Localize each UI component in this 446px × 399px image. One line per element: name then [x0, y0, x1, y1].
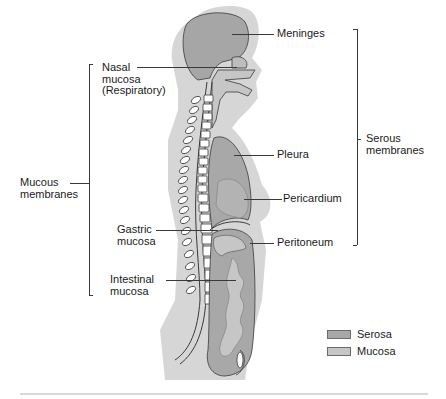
legend-mucosa-label: Mucosa	[357, 345, 396, 357]
mucous-bracket-bottom	[89, 295, 93, 296]
peritoneum-label: Peritoneum	[277, 237, 333, 249]
mucous-membranes-label: Mucous membranes	[20, 177, 78, 200]
nasal-mucosa-label: Nasal mucosa (Respiratory)	[102, 62, 166, 97]
mucous-bracket-top	[89, 64, 93, 65]
gastric-mucosa-leader	[156, 230, 218, 231]
pericardium-label: Pericardium	[283, 193, 342, 205]
pericardium-leader	[244, 199, 282, 200]
legend-serosa: Serosa	[327, 328, 392, 340]
serosa-swatch	[327, 330, 351, 339]
pleura-label: Pleura	[277, 149, 309, 161]
serous-bracket-tick	[357, 139, 361, 140]
intestinal-mucosa-label: Intestinal mucosa	[110, 274, 154, 297]
serous-membranes-label: Serous membranes	[366, 133, 424, 156]
serous-bracket-bottom	[353, 245, 357, 246]
intestinal-mucosa-leader	[166, 280, 236, 281]
peritoneum-leader	[250, 243, 274, 244]
serous-bracket	[357, 29, 358, 245]
legend-mucosa: Mucosa	[327, 345, 396, 357]
gastric-mucosa-label: Gastric mucosa	[117, 224, 156, 247]
meninges-label: Meninges	[277, 28, 325, 40]
pleura-leader	[234, 155, 274, 156]
bottom-rule	[20, 393, 428, 395]
mucosa-swatch	[327, 347, 351, 356]
meninges-leader	[232, 34, 274, 35]
legend-serosa-label: Serosa	[357, 328, 392, 340]
pubic-bone	[237, 352, 243, 368]
mucous-bracket	[89, 64, 90, 296]
serous-bracket-top	[353, 29, 357, 30]
